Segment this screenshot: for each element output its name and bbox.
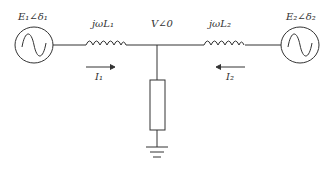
source-2-label: E₂∠δ₂ [286,12,316,22]
current-arrow-1-icon [86,65,115,70]
source-1-label: E₁∠δ₁ [18,12,48,22]
current-arrow-2-icon [216,65,245,70]
inductor-1-label: jωL₁ [92,19,114,29]
load-impedance-icon [150,80,165,130]
inductor-2-label: jωL₂ [209,19,231,29]
ac-source-1-icon [15,27,53,63]
inductor-1-icon [86,41,126,45]
inductor-2-icon [204,41,244,45]
ground-icon [146,147,168,157]
ac-source-2-icon [281,27,319,63]
current-1-label: I₁ [95,72,103,82]
node-voltage-label: V∠0 [151,19,173,29]
current-2-label: I₂ [226,72,234,82]
